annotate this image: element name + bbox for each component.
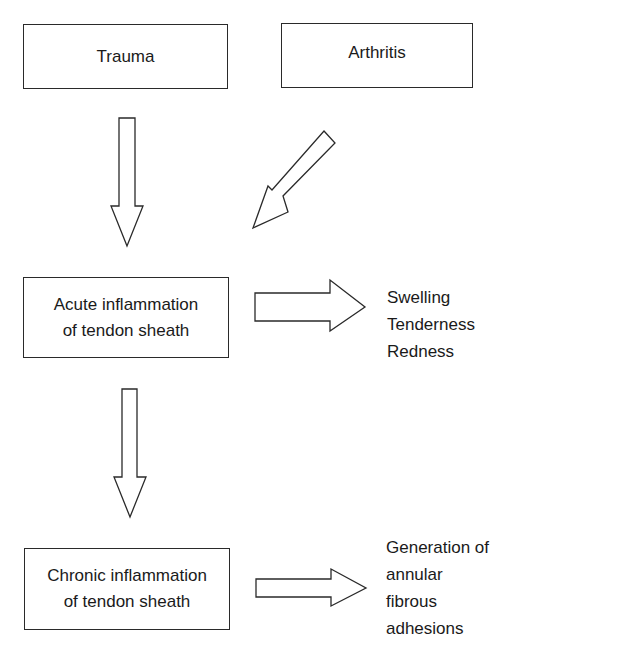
outcome-line-1: Generation of (386, 534, 489, 561)
node-trauma-label: Trauma (97, 44, 155, 70)
node-chronic-line-2: of tendon sheath (64, 589, 191, 615)
node-acute-inflammation: Acute inflammation of tendon sheath (23, 277, 229, 358)
node-acute-line-1: Acute inflammation (54, 292, 199, 318)
outcome-redness: Redness (387, 338, 475, 365)
outcome-chronic-result: Generation of annular fibrous adhesions (386, 534, 489, 642)
node-acute-line-2: of tendon sheath (63, 318, 190, 344)
outcome-line-4: adhesions (386, 615, 489, 642)
outcome-tenderness: Tenderness (387, 311, 475, 338)
node-arthritis-label: Arthritis (348, 40, 406, 66)
outcome-acute-signs: Swelling Tenderness Redness (387, 284, 475, 365)
outcome-line-2: annular (386, 561, 489, 588)
arrow-arthritis-to-acute (253, 131, 335, 228)
node-chronic-inflammation: Chronic inflammation of tendon sheath (24, 548, 230, 630)
node-arthritis: Arthritis (281, 23, 473, 88)
node-chronic-line-1: Chronic inflammation (47, 563, 207, 589)
outcome-swelling: Swelling (387, 284, 475, 311)
outcome-line-3: fibrous (386, 588, 489, 615)
arrow-trauma-to-acute (111, 118, 143, 246)
arrow-acute-to-chronic (114, 389, 146, 517)
arrow-acute-to-symptoms (255, 280, 365, 331)
node-trauma: Trauma (23, 24, 228, 89)
arrow-chronic-to-adhesions (256, 569, 366, 606)
